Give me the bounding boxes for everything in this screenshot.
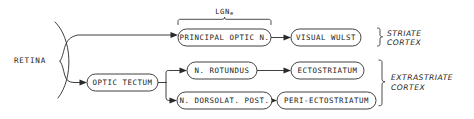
edge-retina-to-optic-tectum bbox=[60, 61, 87, 86]
node-principal-optic-n[interactable]: PRINCIPAL OPTIC N. bbox=[178, 29, 271, 46]
striate-cortex-brace-icon bbox=[378, 28, 383, 46]
arrowhead-icon bbox=[284, 35, 292, 41]
visual-pathway-diagram: RETINA bbox=[0, 0, 474, 119]
arrowhead-icon bbox=[171, 32, 179, 38]
edge-n-rotundus-to-ectostriatum bbox=[257, 68, 291, 74]
node-visual-wulst-label: VISUAL WULST bbox=[296, 33, 356, 42]
lgn-annotation: LGNe bbox=[178, 6, 271, 24]
striate-cortex-label-line1: STRIATE bbox=[387, 29, 422, 38]
node-ectostriatum-label: ECTOSTRIATUM bbox=[298, 66, 358, 75]
node-n-rotundus-label: N. ROTUNDUS bbox=[195, 66, 250, 75]
extrastriate-cortex-label-line2: CORTEX bbox=[391, 83, 425, 92]
edge-retina-to-principal-optic bbox=[60, 32, 178, 61]
group-striate-cortex: STRIATE CORTEX bbox=[378, 28, 422, 47]
node-visual-wulst[interactable]: VISUAL WULST bbox=[291, 29, 361, 46]
group-extrastriate-cortex: EXTRASTRIATE CORTEX bbox=[379, 60, 453, 106]
retina-arc-icon bbox=[55, 22, 69, 98]
node-optic-tectum[interactable]: OPTIC TECTUM bbox=[87, 74, 158, 91]
node-principal-optic-n-label: PRINCIPAL OPTIC N. bbox=[180, 33, 270, 42]
lgn-brace-icon bbox=[178, 17, 271, 24]
arrowhead-icon bbox=[284, 68, 292, 74]
edge-principal-optic-to-visual-wulst bbox=[271, 35, 291, 41]
extrastriate-cortex-brace-icon bbox=[379, 60, 385, 106]
node-peri-ectostriatum[interactable]: PERI-ECTOSTRIATUM bbox=[277, 92, 376, 109]
node-peri-ectostriatum-label: PERI-ECTOSTRIATUM bbox=[284, 96, 369, 105]
retina-label: RETINA bbox=[14, 56, 46, 65]
diagram-canvas: RETINA bbox=[0, 0, 474, 119]
node-n-dorsolat-post-label: N. DORSOLAT. POST. bbox=[180, 96, 270, 105]
node-n-dorsolat-post[interactable]: N. DORSOLAT. POST. bbox=[177, 92, 272, 109]
node-optic-tectum-label: OPTIC TECTUM bbox=[93, 78, 153, 87]
arrowhead-icon bbox=[80, 80, 88, 86]
extrastriate-cortex-label-line1: EXTRASTRIATE bbox=[391, 73, 453, 82]
node-ectostriatum[interactable]: ECTOSTRIATUM bbox=[291, 62, 364, 79]
striate-cortex-label-line2: CORTEX bbox=[387, 38, 421, 47]
node-n-rotundus[interactable]: N. ROTUNDUS bbox=[187, 62, 257, 79]
arrowhead-icon bbox=[180, 68, 188, 74]
arrowhead-icon bbox=[170, 98, 178, 104]
lgn-label: LGNe bbox=[215, 6, 234, 16]
